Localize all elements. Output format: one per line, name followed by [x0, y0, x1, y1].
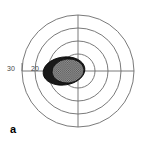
polar-chart-canvas — [0, 0, 150, 145]
radius-tick-label-20: 20 — [31, 65, 39, 72]
polar-plot-figure: 30 20 a — [0, 0, 150, 145]
radius-tick-label-30: 30 — [7, 65, 15, 72]
data-region-group — [41, 54, 86, 88]
panel-label: a — [10, 124, 16, 135]
